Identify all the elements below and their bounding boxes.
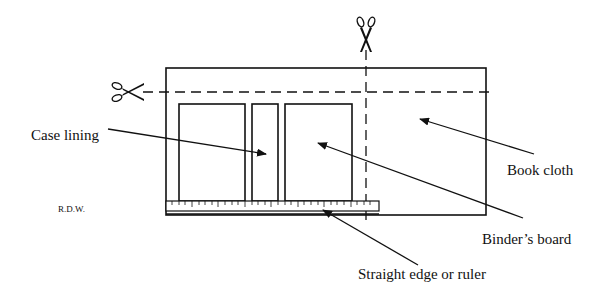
case-lining-label: Case lining <box>31 127 99 143</box>
case-lining-arrow <box>108 129 266 154</box>
straight-edge-arrow <box>323 210 418 265</box>
scissors-icon <box>111 81 144 102</box>
book-cloth-arrow <box>420 119 534 154</box>
book-cloth-cutting-diagram: Case lining Book cloth Binder’s board St… <box>0 0 602 297</box>
book-cloth-sheet <box>166 68 486 215</box>
scissors-icon <box>356 16 376 52</box>
straight-edge-label: Straight edge or ruler <box>358 266 486 282</box>
front-board <box>179 104 245 201</box>
binders-board-label: Binder’s board <box>482 231 572 247</box>
author-initials: R.D.W. <box>58 204 85 214</box>
back-board <box>285 104 352 201</box>
book-cloth-label: Book cloth <box>507 162 574 178</box>
ruler <box>166 201 379 214</box>
